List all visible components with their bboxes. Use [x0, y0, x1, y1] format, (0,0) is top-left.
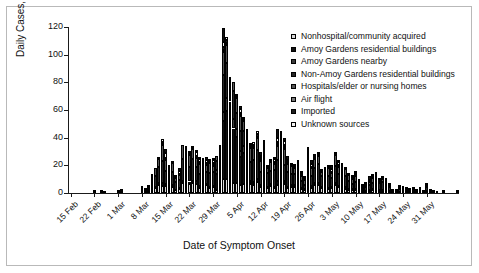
bar-segment	[303, 190, 306, 193]
legend-item[interactable]: Amoy Gardens residential buildings	[291, 44, 471, 55]
bar-segment	[297, 171, 300, 186]
legend-item[interactable]: Air flight	[291, 94, 471, 105]
bar	[364, 183, 367, 193]
legend-item[interactable]: Nonhospital/community acquired	[291, 31, 471, 42]
bar-segment	[303, 180, 306, 185]
bar-segment	[364, 182, 367, 184]
legend-item[interactable]: Imported	[291, 106, 471, 117]
legend-item[interactable]: Hospitals/elder or nursing homes	[291, 81, 471, 92]
bar-segment	[174, 175, 177, 177]
bar-segment	[256, 134, 259, 136]
bar	[297, 161, 300, 193]
bar	[157, 158, 160, 193]
bar-segment	[378, 178, 381, 180]
bar-segment	[239, 131, 242, 151]
legend-item[interactable]: Non-Amoy Gardens residential buildings	[291, 69, 471, 80]
bar-segment	[300, 181, 303, 187]
bar-segment	[341, 169, 344, 171]
bar-segment	[198, 157, 201, 159]
bar	[405, 189, 408, 193]
bar-segment	[300, 173, 303, 175]
bar-segment	[195, 152, 198, 156]
bar-segment	[276, 181, 279, 184]
bar-segment	[425, 187, 428, 191]
bar	[147, 186, 150, 193]
bar-segment	[330, 173, 333, 178]
bar-segment	[385, 182, 388, 185]
bar-segment	[195, 167, 198, 181]
bar-segment	[202, 158, 205, 162]
legend-swatch-icon	[291, 72, 296, 77]
bar-segment	[157, 167, 160, 183]
y-tick-mark	[64, 110, 69, 111]
bar-segment	[222, 112, 225, 121]
bar-segment	[157, 157, 160, 159]
legend-item[interactable]: Unknown sources	[291, 119, 471, 130]
y-tick: 80	[69, 82, 70, 83]
bar-segment	[168, 171, 171, 178]
bar	[354, 171, 357, 193]
bar	[239, 106, 242, 193]
bar	[263, 140, 266, 193]
bar-segment	[256, 138, 259, 150]
bar-segment	[225, 45, 228, 63]
bar-segment	[225, 179, 228, 193]
bar-segment	[334, 155, 337, 166]
y-tick-label: 0	[58, 187, 63, 198]
bar-segment	[310, 176, 313, 186]
bar-segment	[273, 188, 276, 193]
x-tick-mark	[71, 193, 72, 197]
bar-segment	[242, 121, 245, 131]
bar-segment	[147, 189, 150, 191]
bar-segment	[195, 155, 198, 157]
x-tick-mark	[189, 193, 190, 197]
bar	[358, 181, 361, 193]
bar-segment	[191, 146, 194, 148]
bar-segment	[147, 187, 150, 189]
bar-segment	[456, 190, 459, 192]
bar-segment	[198, 174, 201, 186]
legend-swatch-icon	[291, 34, 296, 39]
legend-swatch-icon	[291, 97, 296, 102]
bar-segment	[191, 149, 194, 159]
bar	[378, 179, 381, 193]
bar-segment	[212, 172, 215, 186]
bar-segment	[337, 174, 340, 186]
bar-segment	[266, 168, 269, 173]
bar-segment	[398, 187, 401, 189]
bar-segment	[147, 185, 150, 187]
bar-segment	[269, 184, 272, 186]
bar-segment	[256, 131, 259, 134]
bar-segment	[202, 173, 205, 185]
bar-segment	[215, 190, 218, 193]
bar-segment	[303, 176, 306, 178]
bar-segment	[242, 146, 245, 153]
bar-segment	[337, 167, 340, 174]
bar-segment	[388, 187, 391, 191]
bar-segment	[168, 177, 171, 186]
bar-segment	[436, 191, 439, 193]
bar-segment	[402, 186, 405, 188]
bar	[327, 167, 330, 193]
bar-segment	[178, 175, 181, 180]
bar	[347, 174, 350, 193]
bar-segment	[205, 165, 208, 172]
bar-segment	[290, 174, 293, 185]
bar-segment	[164, 171, 167, 183]
y-tick-label: 120	[48, 21, 63, 32]
bar-segment	[307, 153, 310, 165]
bar-segment	[324, 190, 327, 193]
x-tick-mark	[308, 193, 309, 197]
bar	[385, 179, 388, 193]
bar-segment	[141, 186, 144, 188]
bar	[415, 190, 418, 193]
bar-segment	[208, 163, 211, 173]
bar-segment	[252, 160, 255, 182]
legend-item[interactable]: Amoy Gardens nearby	[291, 56, 471, 67]
bar-segment	[198, 188, 201, 193]
bar	[154, 168, 157, 193]
y-tick: 100	[69, 55, 70, 56]
y-tick-label: 80	[53, 76, 63, 87]
bar-segment	[375, 172, 378, 174]
bar-segment	[219, 189, 222, 193]
